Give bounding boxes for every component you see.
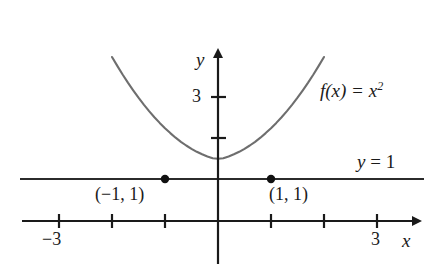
math-figure: y x 3 −3 3 f(x) = x2 y = 1 (−1, 1) (1, 1… [0, 0, 428, 266]
x-tick-label-3: 3 [371, 230, 380, 248]
point-label-left: (−1, 1) [95, 185, 144, 203]
y-tick-label-3: 3 [192, 87, 201, 105]
x-axis-label: x [402, 231, 410, 250]
point-label-right: (1, 1) [269, 185, 308, 203]
intersection-point-left [161, 175, 169, 183]
y-axis-label: y [196, 50, 204, 69]
horizontal-line-label: y = 1 [357, 152, 395, 171]
function-label-base: f(x) = x [320, 80, 377, 101]
plot-canvas [0, 0, 428, 266]
function-label-exponent: 2 [377, 79, 383, 93]
function-label: f(x) = x2 [320, 80, 383, 100]
intersection-point-right [267, 175, 275, 183]
x-axis-arrowhead [412, 216, 422, 226]
x-tick-label-neg3: −3 [42, 230, 61, 248]
y-axis-arrowhead [213, 48, 223, 58]
horizontal-line-label-rest: = 1 [365, 151, 395, 172]
